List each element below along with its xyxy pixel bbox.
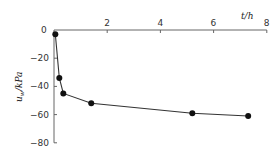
x-tick-label: 8	[264, 18, 270, 28]
svg-text:uw/kPa: uw/kPa	[14, 72, 25, 102]
y-tick-label: −20	[30, 53, 49, 63]
x-tick-label: 4	[157, 18, 163, 28]
data-point-marker	[56, 75, 62, 81]
x-tick-label: 2	[104, 18, 110, 28]
data-point-marker	[245, 113, 251, 119]
series-line	[55, 34, 248, 116]
x-tick-label: 6	[211, 18, 217, 28]
data-point-marker	[88, 100, 94, 106]
x-axis-title: t/h	[241, 11, 253, 21]
y-axis-title: uw/kPa	[14, 72, 25, 102]
data-point-marker	[60, 90, 66, 96]
axes: 2468−20−40−60−80	[30, 18, 270, 148]
data-series	[52, 31, 251, 119]
y-tick-label: −80	[30, 138, 49, 148]
origin-label: 0	[41, 25, 47, 35]
y-tick-label: −60	[30, 110, 49, 120]
chart: 2468−20−40−60−80 0 t/h uw/kPa	[0, 0, 280, 158]
data-point-marker	[52, 31, 58, 37]
data-point-marker	[189, 110, 195, 116]
y-tick-label: −40	[30, 81, 49, 91]
